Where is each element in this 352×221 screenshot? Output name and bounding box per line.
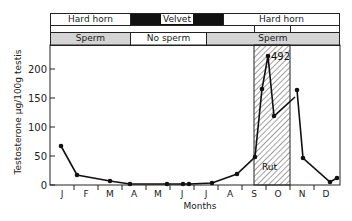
y-axis-ticks (50, 69, 55, 185)
rut-label: Rut (262, 162, 278, 172)
svg-text:A: A (227, 189, 234, 199)
data-points (59, 54, 340, 187)
svg-text:D: D (323, 189, 330, 199)
svg-text:N: N (299, 189, 306, 199)
svg-text:S: S (251, 189, 257, 199)
y-tick-labels: 0 50 100 150 200 (28, 64, 47, 191)
svg-text:A: A (131, 189, 138, 199)
x-tick-labels: J F M A M J J A S O N D (60, 189, 330, 199)
svg-text:50: 50 (34, 151, 47, 162)
svg-text:F: F (83, 189, 88, 199)
svg-text:100: 100 (28, 122, 47, 133)
peak-label: 492 (271, 51, 290, 62)
svg-text:M: M (154, 189, 162, 199)
svg-text:J: J (204, 189, 208, 199)
svg-text:O: O (274, 189, 281, 199)
svg-text:J: J (180, 189, 184, 199)
x-axis-label: Months (170, 201, 230, 211)
svg-text:200: 200 (28, 64, 47, 75)
svg-text:150: 150 (28, 93, 47, 104)
svg-text:0: 0 (41, 180, 47, 191)
y-axis-label: Testosterone µg/100g testis (13, 42, 23, 182)
testosterone-line-2 (297, 90, 337, 182)
svg-text:M: M (106, 189, 114, 199)
svg-text:J: J (60, 189, 64, 199)
plot-frame (50, 45, 340, 185)
chart-plot: 492 Rut 0 50 100 150 200 J F M A M J J A… (0, 0, 352, 221)
